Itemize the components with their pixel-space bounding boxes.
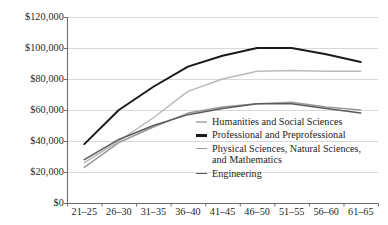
legend-item-label: Humanities and Social Sciences bbox=[212, 116, 342, 127]
x-tick-label: 51–55 bbox=[274, 205, 309, 223]
x-tick-label: 21–25 bbox=[67, 205, 102, 223]
x-tick-label: 26–30 bbox=[102, 205, 137, 223]
x-tick-label: 31–35 bbox=[136, 205, 171, 223]
x-tick-label: 56–60 bbox=[309, 205, 344, 223]
chart-container: $0$20,000$40,000$60,000$80,000$100,000$1… bbox=[0, 0, 388, 225]
legend-item[interactable]: Physical Sciences, Natural Sciences, and… bbox=[196, 143, 382, 166]
legend-line-swatch-icon bbox=[196, 169, 207, 179]
x-tick-label: 41–45 bbox=[205, 205, 240, 223]
legend-line-swatch-icon bbox=[196, 130, 207, 140]
x-axis-labels: 21–2526–3031–3536–4041–4546–5051–5556–60… bbox=[67, 205, 378, 223]
chart-legend: Humanities and Social SciencesProfession… bbox=[196, 116, 382, 181]
legend-item-label: Physical Sciences, Natural Sciences, and… bbox=[212, 143, 361, 166]
x-tick-label: 46–50 bbox=[240, 205, 275, 223]
legend-item[interactable]: Professional and Preprofessional bbox=[196, 129, 382, 140]
legend-line-swatch-icon bbox=[196, 144, 207, 154]
legend-item-label: Engineering bbox=[212, 168, 262, 179]
x-tick-label: 36–40 bbox=[171, 205, 206, 223]
legend-item[interactable]: Humanities and Social Sciences bbox=[196, 116, 382, 127]
plot-area bbox=[0, 0, 388, 225]
legend-item-label: Professional and Preprofessional bbox=[212, 129, 346, 140]
legend-item[interactable]: Engineering bbox=[196, 168, 382, 179]
x-tick-label: 61–65 bbox=[344, 205, 379, 223]
legend-line-swatch-icon bbox=[196, 117, 207, 127]
